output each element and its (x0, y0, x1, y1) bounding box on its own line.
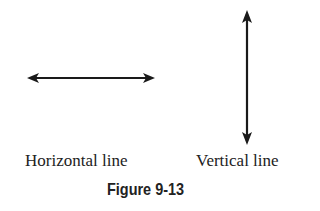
vertical-line-arrow (242, 10, 252, 145)
vertical-line-label: Vertical line (196, 151, 279, 171)
horizontal-line-label: Horizontal line (25, 151, 127, 171)
figure-caption: Figure 9-13 (107, 180, 184, 200)
horizontal-line-arrow (27, 73, 155, 83)
